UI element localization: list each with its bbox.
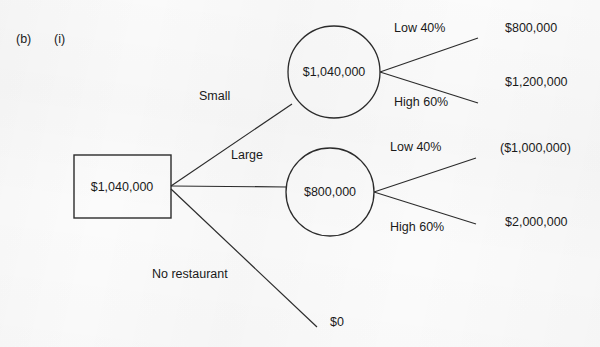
- outcome-line-small-low: [380, 38, 478, 72]
- decision-tree-graphic: [0, 0, 600, 347]
- payoff-no-restaurant: $0: [330, 316, 344, 329]
- decision-tree-figure: (b) (i) $1,040,000 $1,040,000 $800,000 S…: [0, 0, 600, 347]
- branch-line-large: [171, 186, 287, 187]
- branch-label-no-restaurant: No restaurant: [152, 268, 228, 281]
- prob-label-small-high: High 60%: [394, 96, 448, 109]
- chance-node-value-small: $1,040,000: [303, 66, 366, 79]
- payoff-small-low: $800,000: [505, 22, 557, 35]
- decision-node-value: $1,040,000: [91, 181, 154, 194]
- branch-label-small: Small: [199, 90, 230, 103]
- question-subpart-label: (i): [54, 33, 65, 46]
- prob-label-large-low: Low 40%: [390, 141, 441, 154]
- branch-line-small: [171, 104, 292, 186]
- payoff-large-low: ($1,000,000): [500, 142, 571, 155]
- payoff-small-high: $1,200,000: [505, 76, 568, 89]
- prob-label-large-high: High 60%: [390, 221, 444, 234]
- question-part-label: (b): [16, 33, 31, 46]
- branch-label-large: Large: [231, 149, 263, 162]
- outcome-line-large-low: [374, 158, 476, 192]
- chance-node-value-large: $800,000: [304, 186, 356, 199]
- payoff-large-high: $2,000,000: [505, 216, 568, 229]
- branch-line-no-restaurant: [171, 189, 317, 327]
- prob-label-small-low: Low 40%: [394, 22, 445, 35]
